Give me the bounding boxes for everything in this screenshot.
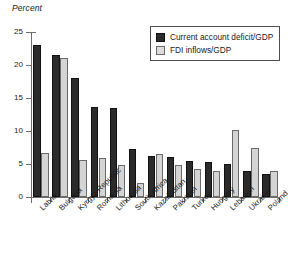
legend-swatch-light — [156, 46, 165, 55]
bar — [60, 58, 67, 197]
bar-group — [50, 32, 69, 197]
x-tick — [31, 197, 32, 203]
bar-chart-figure: Percent 0510152025 LatviaBulgariaKyrgyz … — [0, 0, 288, 264]
bar — [33, 45, 40, 197]
chart-legend: Current account deficit/GDPFDI inflows/G… — [150, 26, 280, 61]
y-tick-label-10: 10 — [1, 126, 23, 135]
bar-group — [31, 32, 50, 197]
y-tick-label-5: 5 — [1, 159, 23, 168]
bar — [213, 171, 220, 197]
bar — [41, 153, 48, 197]
legend-swatch-dark — [156, 33, 165, 42]
bar-group — [88, 32, 107, 197]
bar-group — [126, 32, 145, 197]
legend-item: FDI inflows/GDP — [156, 44, 273, 56]
y-tick-label-20: 20 — [1, 60, 23, 69]
y-axis-title: Percent — [12, 3, 42, 13]
legend-label: FDI inflows/GDP — [170, 45, 231, 55]
legend-item: Current account deficit/GDP — [156, 31, 273, 43]
legend-label: Current account deficit/GDP — [170, 32, 273, 42]
y-tick-label-0: 0 — [1, 192, 23, 201]
bar — [71, 78, 78, 197]
y-tick-label-25: 25 — [1, 27, 23, 36]
bar — [52, 55, 59, 197]
bar-group — [69, 32, 88, 197]
y-tick-label-15: 15 — [1, 93, 23, 102]
